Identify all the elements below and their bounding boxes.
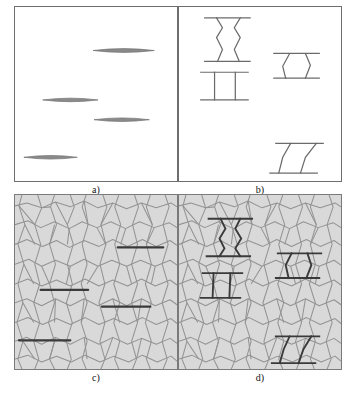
- crack-lens: [94, 118, 149, 122]
- panel-d-drawing: [179, 195, 341, 369]
- panel-a: [14, 6, 178, 182]
- crack-lens: [93, 49, 154, 53]
- panel-d-caption: d): [178, 372, 342, 384]
- slanted-bridge-crack: [270, 143, 323, 173]
- panel-a-drawing: [15, 7, 177, 181]
- crack-lens: [43, 98, 98, 102]
- panel-b-cracks: [201, 18, 323, 173]
- panel-b-drawing: [179, 7, 341, 181]
- trapezoid-bridge-crack: [274, 53, 319, 78]
- panel-c: [14, 194, 178, 370]
- panel-c-drawing: [15, 195, 177, 369]
- panel-d: [178, 194, 342, 370]
- hourglass-bridge-crack: [205, 18, 250, 62]
- figure-container: a): [0, 0, 355, 398]
- crack-lens: [24, 155, 77, 159]
- ladder-bridge-crack: [201, 72, 248, 100]
- panel-c-caption: c): [14, 372, 178, 384]
- panel-a-cracks: [24, 49, 154, 159]
- panel-b: [178, 6, 342, 182]
